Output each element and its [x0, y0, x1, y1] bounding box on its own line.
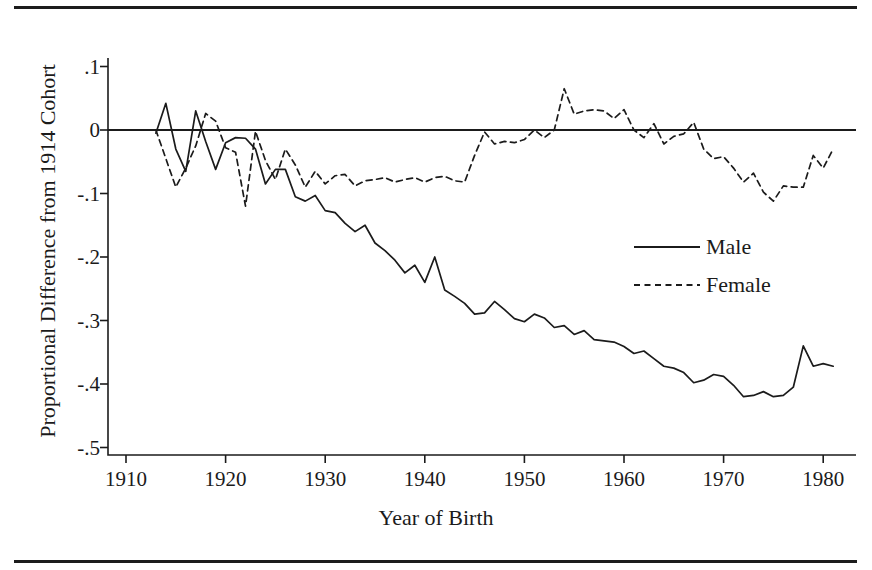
legend-label-male: Male: [706, 234, 751, 260]
x-tick-label: 1930: [304, 467, 346, 492]
x-tick-label: 1940: [404, 467, 446, 492]
figure-container: .10-.1-.2-.3-.4-.5 191019201930194019501…: [0, 0, 872, 570]
y-axis-title: Proportional Difference from 1914 Cohort: [35, 41, 61, 461]
x-tick-label: 1950: [503, 467, 545, 492]
series-line-female: [156, 89, 833, 206]
legend-label-female: Female: [706, 272, 771, 298]
x-tick-label: 1980: [802, 467, 844, 492]
x-axis-title: Year of Birth: [0, 505, 872, 531]
x-tick-label: 1960: [603, 467, 645, 492]
legend-key-group: [634, 247, 700, 285]
x-tick-label: 1920: [205, 467, 247, 492]
x-tick-label: 1970: [703, 467, 745, 492]
x-tick-label: 1910: [105, 467, 147, 492]
